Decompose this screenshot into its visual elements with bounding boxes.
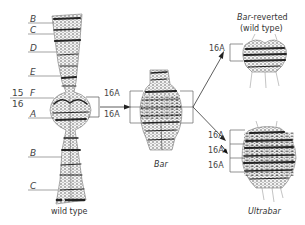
bar-reverted-bracket bbox=[230, 44, 243, 61]
region-label-16: 16 bbox=[12, 100, 23, 109]
ultrabar-caption: Ultrabar bbox=[248, 207, 281, 216]
band-label-c: C bbox=[30, 26, 36, 35]
arrow-bar-to-reverted bbox=[193, 51, 224, 107]
band-label-a: A bbox=[30, 110, 36, 119]
ultrabar-segment-label-3: 16A bbox=[208, 161, 224, 170]
bar-chromosome bbox=[140, 70, 182, 150]
region-label-15: 15 bbox=[12, 89, 23, 98]
wild-type-caption: wild type bbox=[51, 207, 87, 216]
bar-reverted-title: Bar-reverted bbox=[237, 13, 288, 22]
band-label-e: E bbox=[30, 68, 36, 77]
band-label-b-lower: B bbox=[30, 149, 36, 158]
diagram-canvas bbox=[0, 0, 305, 225]
band-label-d: D bbox=[30, 44, 37, 53]
band-label-c-lower: C bbox=[30, 182, 36, 191]
arrow-wildtype-to-bar bbox=[100, 105, 131, 110]
bar-reverted-title-italic: Bar bbox=[237, 13, 251, 22]
bar-reverted-chromosome bbox=[243, 34, 287, 88]
bar-reverted-subtitle: (wild type) bbox=[240, 24, 283, 33]
bar-segment-label-1: 16A bbox=[104, 89, 120, 98]
band-label-f: F bbox=[30, 89, 35, 98]
bar-segment-label-2: 16A bbox=[104, 110, 120, 119]
ultrabar-chromosome bbox=[242, 121, 296, 202]
bar-caption: Bar bbox=[154, 160, 168, 169]
band-label-b: B bbox=[30, 15, 36, 24]
ultrabar-segment-label-2: 16A bbox=[208, 146, 224, 155]
bar-reverted-title-rest: -reverted bbox=[251, 13, 288, 22]
ultrabar-segment-label-1: 16A bbox=[208, 131, 224, 140]
wild-type-chromosome bbox=[50, 14, 91, 204]
bar-reverted-segment-label: 16A bbox=[209, 44, 225, 53]
